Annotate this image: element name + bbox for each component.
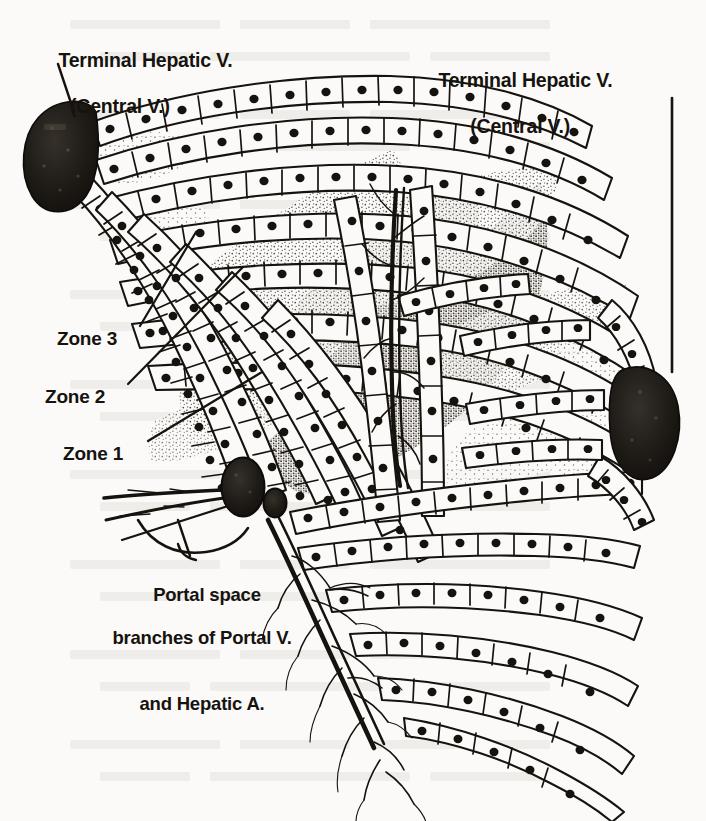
label-zone-1: Zone 1 xyxy=(63,443,123,465)
label-zone-3: Zone 3 xyxy=(57,328,117,350)
label-portal-line2: branches of Portal V. xyxy=(88,627,316,649)
label-thv-right-line1: Terminal Hepatic V. xyxy=(438,69,612,91)
label-thv-left-line1: Terminal Hepatic V. xyxy=(58,49,232,71)
label-terminal-hepatic-vein-right: Terminal Hepatic V. (Central V.) xyxy=(428,46,612,161)
portal-vein-branch xyxy=(222,458,265,517)
label-terminal-hepatic-vein-left: Terminal Hepatic V. (Central V.) xyxy=(48,26,232,141)
label-zone-2: Zone 2 xyxy=(45,386,105,408)
label-thv-right-line2: (Central V.) xyxy=(428,115,612,138)
label-thv-left-line2: (Central V.) xyxy=(70,95,232,118)
hepatic-artery-branch xyxy=(264,489,287,518)
label-portal-line3: and Hepatic A. xyxy=(88,693,316,715)
terminal-hepatic-venule-right xyxy=(609,367,679,480)
label-portal-line1: Portal space xyxy=(153,584,261,605)
label-portal-space: Portal space branches of Portal V. and H… xyxy=(88,562,316,737)
